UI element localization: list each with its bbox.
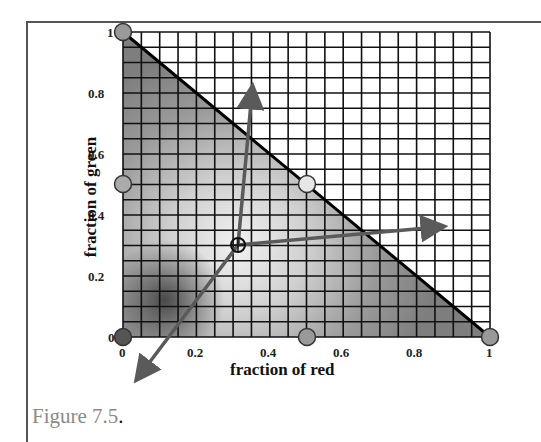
marker-mid-hypotenuse bbox=[299, 176, 316, 193]
x-tick-0.6: 0.6 bbox=[333, 345, 349, 361]
caption-text: Figure 7.5 bbox=[32, 404, 118, 428]
marker-origin bbox=[115, 329, 132, 346]
marker-mid-red-axis bbox=[299, 329, 316, 346]
x-tick-0: 0 bbox=[119, 345, 126, 361]
y-tick-1: 1 bbox=[107, 25, 114, 41]
caption-period: . bbox=[118, 404, 123, 428]
figure-caption: Figure 7.5. bbox=[32, 404, 124, 429]
x-tick-0.4: 0.4 bbox=[260, 345, 276, 361]
x-tick-0.2: 0.2 bbox=[187, 345, 203, 361]
x-axis-label: fraction of red bbox=[230, 360, 335, 380]
x-tick-0.8: 0.8 bbox=[406, 345, 422, 361]
figure-panel: 1 0.8 0.6 0.4 0.2 0 0 0.2 0.4 0.6 0.8 1 … bbox=[0, 0, 541, 442]
y-tick-0.8: 0.8 bbox=[88, 86, 104, 102]
marker-red-primary bbox=[482, 329, 499, 346]
white-point-marker bbox=[231, 238, 245, 252]
marker-mid-green-axis bbox=[115, 176, 132, 193]
marker-green-primary bbox=[115, 24, 132, 41]
y-axis-label: fraction of green bbox=[81, 122, 105, 272]
y-tick-0: 0 bbox=[108, 330, 115, 346]
x-tick-1: 1 bbox=[486, 345, 493, 361]
